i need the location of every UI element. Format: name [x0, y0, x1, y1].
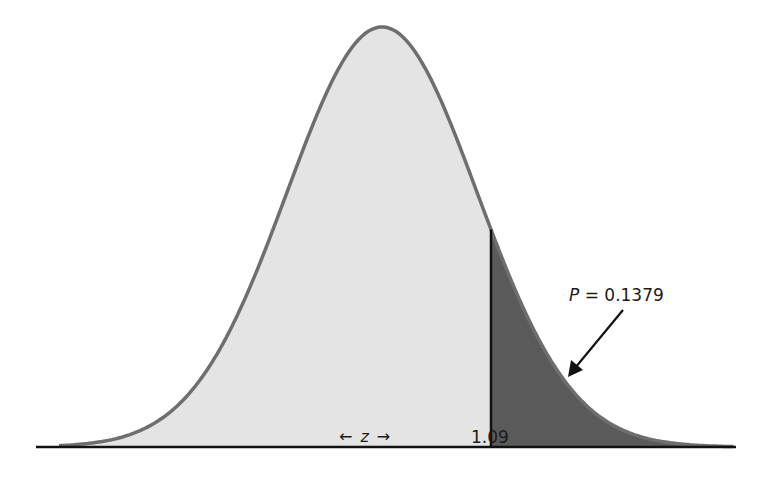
z-variable: z	[360, 427, 368, 446]
left-arrow-icon: ←	[339, 427, 352, 446]
probability-annotation: P = 0.1379	[569, 285, 664, 305]
p-value: = 0.1379	[585, 285, 664, 305]
normal-curve-chart	[0, 0, 773, 499]
cutoff-tick-label: 1.09	[471, 427, 509, 447]
curve-body-fill	[59, 27, 734, 447]
right-arrow-icon: →	[377, 427, 390, 446]
annotation-arrow-shaft	[575, 310, 623, 368]
p-variable: P	[569, 285, 579, 305]
upper-tail-shaded-region	[491, 230, 734, 448]
z-axis-label: ←z→	[339, 427, 390, 446]
